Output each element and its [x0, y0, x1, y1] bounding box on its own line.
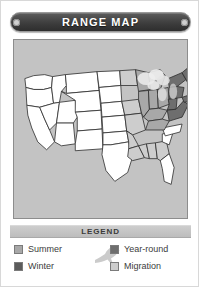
great-lakes-overlay-4 [147, 81, 159, 90]
state-newmexico [75, 129, 103, 151]
title-ribbon-shape: RANGE MAP [10, 12, 191, 32]
us-range-map [14, 40, 187, 218]
title-banner: RANGE MAP [10, 12, 191, 32]
legend-swatch-migration [110, 262, 119, 271]
state-washington [25, 75, 53, 90]
atlantic-coast-overlay [169, 84, 177, 100]
legend-title: LEGEND [81, 228, 120, 236]
legend-label-summer: Summer [28, 245, 62, 254]
legend-header-bar: LEGEND [10, 225, 191, 238]
legend-swatch-winter [14, 262, 23, 271]
state-northdakota [97, 71, 121, 88]
legend-swatch-summer [14, 245, 23, 254]
great-lakes-overlay-5 [158, 87, 167, 101]
legend-item-migration: Migration [110, 258, 188, 275]
state-utah [57, 100, 78, 123]
legend-swatch-year-round [110, 245, 119, 254]
page-title: RANGE MAP [62, 17, 139, 28]
state-texas [102, 142, 133, 182]
legend-item-summer: Summer [14, 241, 92, 258]
state-colorado [75, 110, 102, 131]
legend-label-winter: Winter [28, 262, 54, 271]
legend-column-left: Summer Winter [14, 241, 92, 275]
range-map-card: RANGE MAP [0, 0, 199, 287]
state-arizona [55, 123, 76, 146]
region-migration-minnesota [120, 70, 138, 86]
map-panel [13, 39, 188, 219]
state-kansas [102, 115, 127, 133]
region-summer-indiana [148, 89, 158, 109]
state-southdakota [99, 86, 122, 104]
region-migration-iowa [122, 99, 142, 115]
legend-body: Summer Winter Year-round Migration [10, 241, 191, 277]
legend-label-migration: Migration [124, 262, 161, 271]
legend-item-winter: Winter [14, 258, 92, 275]
legend-item-year-round: Year-round [110, 241, 188, 258]
state-nebraska [101, 101, 125, 117]
legend-column-right: Year-round Migration [110, 241, 188, 275]
state-montana [65, 72, 99, 94]
legend-label-year-round: Year-round [124, 245, 168, 254]
state-idaho [52, 75, 67, 104]
